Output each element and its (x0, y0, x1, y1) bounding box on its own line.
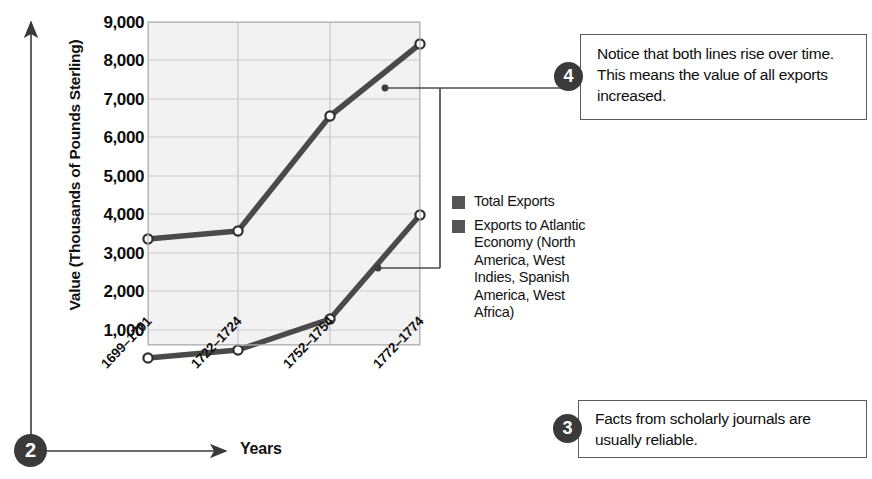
legend-item-atlantic-economy: Exports to Atlantic Economy (North Ameri… (452, 217, 588, 322)
chart-legend: Total Exports Exports to Atlantic Econom… (452, 193, 588, 328)
chart-figure: Value (Thousands of Pounds Sterling) 9,0… (0, 0, 872, 479)
callout-badge-3: 3 (553, 414, 582, 443)
legend-swatch-icon (452, 196, 465, 209)
callout-text: Notice that both lines rise over time. T… (597, 45, 834, 104)
legend-item-total-exports: Total Exports (452, 193, 588, 211)
legend-swatch-icon (452, 220, 465, 233)
connector-dot (382, 85, 389, 92)
axis-annotation-badge-2: 2 (14, 434, 47, 467)
callout-text: Facts from scholarly journals are usuall… (595, 410, 811, 448)
callout-badge-4: 4 (554, 62, 583, 91)
callout-box-3: Facts from scholarly journals are usuall… (578, 400, 867, 458)
legend-label: Exports to Atlantic Economy (North Ameri… (474, 217, 588, 322)
callout-box-4: Notice that both lines rise over time. T… (580, 34, 867, 120)
x-axis-title: Years (240, 440, 282, 458)
connector-dot (375, 265, 382, 272)
legend-label: Total Exports (474, 193, 555, 211)
